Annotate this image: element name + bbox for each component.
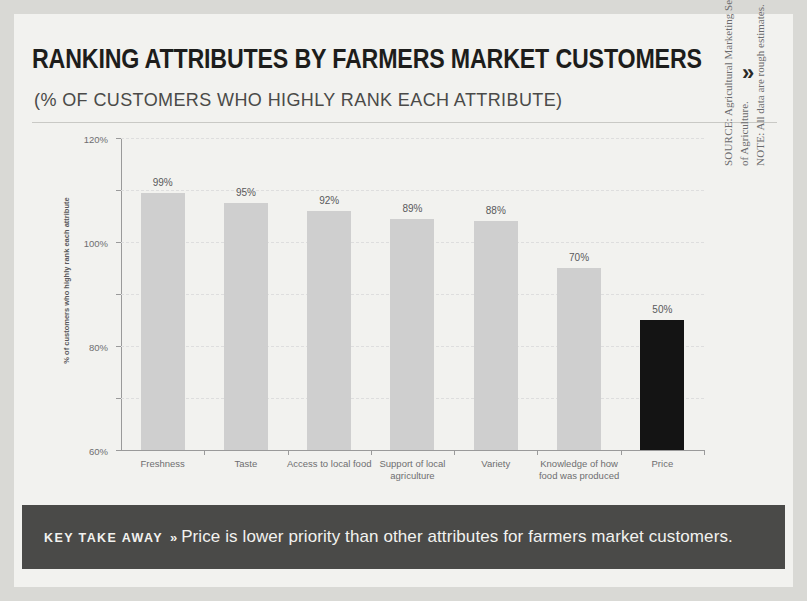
bar-chart: % of customers who highly rank each attr… [32,126,777,504]
x-axis-category-label: Knowledge of how food was produced [534,458,624,482]
bar[interactable] [390,219,434,450]
page-title: RANKING ATTRIBUTES BY FARMERS MARKET CUS… [32,44,702,75]
bar[interactable] [640,320,684,450]
bar-value-label: 92% [319,195,339,206]
page-subtitle: (% OF CUSTOMERS WHO HIGHLY RANK EACH ATT… [34,90,563,111]
x-axis-category-label: Freshness [118,458,208,470]
bar-value-label: 99% [153,177,173,188]
y-axis-label: % of customers who highly rank each attr… [62,181,71,381]
x-axis-tick [371,450,372,455]
bar-group[interactable]: 50%Price [621,138,704,450]
bar-value-label: 88% [486,205,506,216]
source-note: SOURCE: Agricultural Marketing Service o… [720,0,768,166]
bar-value-label: 95% [236,187,256,198]
x-axis-tick [621,450,622,455]
bar-group[interactable]: 88%Variety [454,138,537,450]
note-text: All data are rough estimates. [754,4,766,132]
x-axis-category-label: Taste [201,458,291,470]
plot-area: 0%20%40%60%80%100%120%99%Freshness95%Tas… [121,138,704,450]
x-axis-category-label: Support of local agriculture [367,458,457,482]
bar[interactable] [474,221,518,450]
bar[interactable] [307,211,351,450]
page-background: RANKING ATTRIBUTES BY FARMERS MARKET CUS… [0,0,807,601]
y-axis-tick: 0% [116,450,121,451]
header-divider [32,122,777,123]
key-takeaway-chevron-icon: » [163,530,181,545]
y-axis-tick-label: 120% [84,134,108,145]
x-axis-tick [454,450,455,455]
y-axis-tick-label: 80% [89,342,108,353]
x-axis-tick [204,450,205,455]
note-lead: NOTE: [754,133,766,166]
infographic-sheet: RANKING ATTRIBUTES BY FARMERS MARKET CUS… [14,14,793,587]
x-axis-category-label: Access to local food [284,458,374,470]
x-axis-tick [537,450,538,455]
key-takeaway-content: KEY TAKE AWAY»Price is lower priority th… [22,527,733,547]
key-takeaway-banner: KEY TAKE AWAY»Price is lower priority th… [22,505,785,569]
bar[interactable] [141,193,185,450]
bar-value-label: 50% [652,304,672,315]
bar[interactable] [224,203,268,450]
bar-group[interactable]: 70%Knowledge of how food was produced [537,138,620,450]
x-axis-tick [704,450,705,455]
x-axis-category-label: Variety [451,458,541,470]
bar-value-label: 70% [569,252,589,263]
y-axis-tick-label: 100% [84,238,108,249]
bar-value-label: 89% [402,203,422,214]
x-axis-line [121,450,704,451]
key-takeaway-label: KEY TAKE AWAY [44,531,163,545]
bar-group[interactable]: 92%Access to local food [288,138,371,450]
y-axis-tick-label: 60% [89,446,108,457]
bar[interactable] [557,268,601,450]
source-lead: SOURCE: [722,118,734,166]
x-axis-category-label: Price [617,458,707,470]
bar-group[interactable]: 99%Freshness [121,138,204,450]
x-axis-tick [288,450,289,455]
bar-group[interactable]: 95%Taste [204,138,287,450]
key-takeaway-text: Price is lower priority than other attri… [181,527,733,546]
bar-group[interactable]: 89%Support of local agriculture [371,138,454,450]
